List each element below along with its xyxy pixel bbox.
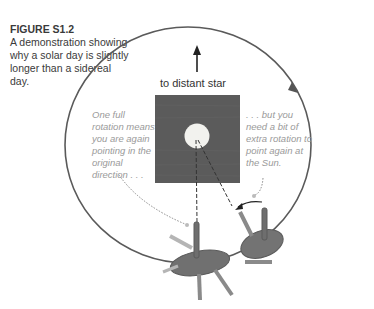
diagram-canvas	[0, 0, 374, 309]
rotation-arrow-icon	[235, 203, 243, 210]
note-full-rotation: One full rotation means you are again po…	[92, 109, 156, 181]
star-arrow-icon	[193, 45, 201, 55]
sun-icon	[185, 124, 210, 149]
leader-right	[255, 178, 263, 195]
star-direction-label: to distant star	[160, 77, 226, 89]
note-extra-rotation: . . . but you need a bit of extra rotati…	[246, 109, 316, 169]
person-figures	[163, 208, 287, 300]
